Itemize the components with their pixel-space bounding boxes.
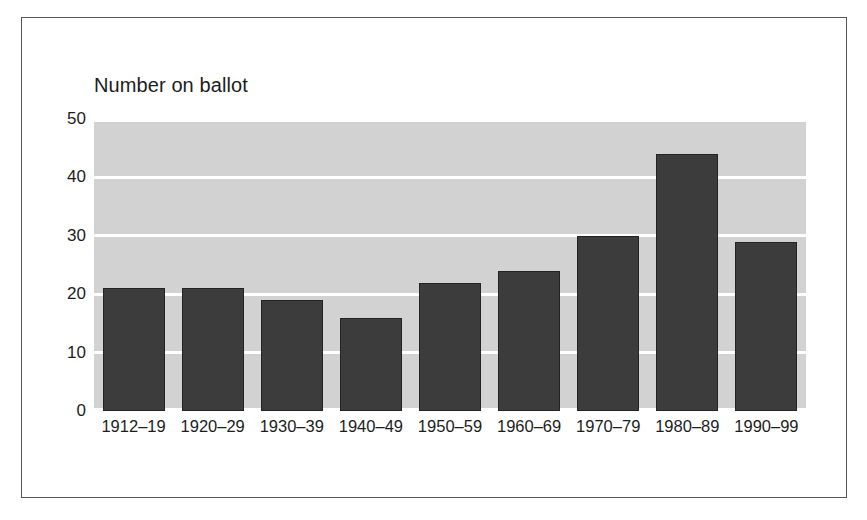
x-axis: 1912–191920–291930–391940–491950–591960–… [94,417,806,443]
x-tick-label: 1960–69 [490,417,569,436]
y-tick-label: 40 [22,167,86,187]
bar [656,154,718,411]
plot-area [94,119,806,411]
x-tick-label: 1920–29 [173,417,252,436]
bar [340,318,402,411]
x-tick-label: 1940–49 [331,417,410,436]
y-tick-label: 0 [22,401,86,421]
bar [577,236,639,411]
bar [735,242,797,411]
x-tick-label: 1950–59 [410,417,489,436]
y-tick-label: 10 [22,343,86,363]
x-tick-label: 1930–39 [252,417,331,436]
x-tick-label: 1990–99 [727,417,806,436]
bar [182,288,244,411]
x-tick-label: 1970–79 [569,417,648,436]
bar [261,300,323,411]
chart-figure-frame: Number on ballot 01020304050 1912–191920… [21,17,847,498]
x-tick-label: 1912–19 [94,417,173,436]
bar [103,288,165,411]
bar [419,283,481,411]
bar-series [94,119,806,411]
chart-title: Number on ballot [94,74,248,97]
x-tick-label: 1980–89 [648,417,727,436]
bar [498,271,560,411]
y-tick-label: 30 [22,226,86,246]
y-tick-label: 50 [22,109,86,129]
y-axis: 01020304050 [22,119,86,411]
y-tick-label: 20 [22,284,86,304]
